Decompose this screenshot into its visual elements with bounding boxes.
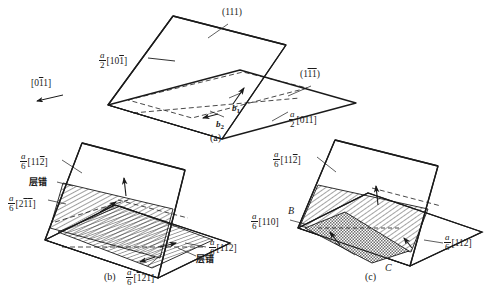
dir-a6-110-label-c: a6[110] (251, 212, 279, 231)
dir-a2-10bar1-label: a2[101] (99, 51, 127, 70)
point-c-label: C (385, 263, 392, 274)
tilted-top-edge-c (335, 140, 438, 166)
dir-a6-112-label-c: a6[112] (444, 233, 472, 252)
caption-c: (c) (365, 272, 376, 283)
dir-a2-011-label: a2[011] (289, 110, 317, 129)
figure-root: (111) (111) a2[101] [011] a2[011] b1 b2 … (0, 0, 492, 295)
stacking-fault-upper-label-b: 层错 (29, 178, 47, 187)
burgers-b2-label: b2 (216, 120, 224, 131)
point-b-label: B (288, 206, 294, 217)
dir-0bar11-label: [011] (31, 79, 51, 89)
plane-1bar1bar-label: (111) (300, 70, 320, 80)
dir-a6-2bar1bar1-label-b: a6[211] (8, 194, 36, 213)
dir-a6-11bar2-label-b: a6[112] (20, 152, 48, 171)
leader-a6-11bar2-b (62, 160, 82, 173)
dir-a6-11bar2-label-c: a6[112] (273, 150, 301, 169)
caption-a: (a) (210, 133, 221, 144)
burgers-b1-label: b1 (232, 104, 240, 115)
arrow-dir-0bar11 (37, 95, 63, 101)
caption-b: (b) (104, 272, 116, 283)
tilted-top-edge-b (82, 143, 185, 170)
plane-111-label: (111) (222, 8, 242, 18)
arrow-partial-b-up (124, 178, 126, 196)
stacking-fault-lower-label-b: 层错 (196, 255, 214, 264)
figure-svg (0, 0, 492, 295)
dir-a6-bar121-label-b: a6[121] (126, 268, 154, 287)
